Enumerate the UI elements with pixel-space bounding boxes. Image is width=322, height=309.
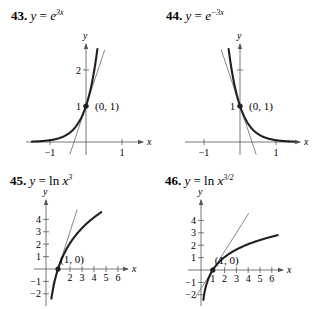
x-tick-label: 4: [92, 272, 97, 283]
x-axis-label: x: [146, 136, 152, 147]
point-marker: [210, 267, 215, 272]
y-tick-label: 2: [191, 240, 196, 251]
y-tick-label: 3: [36, 226, 41, 237]
x-tick-label: −1: [199, 147, 210, 158]
chart-title: 43. y = e3x: [11, 8, 64, 23]
x-tick-label: 5: [104, 272, 109, 283]
y-tick-label: −1: [30, 276, 41, 287]
x-tick-label: 1: [120, 147, 125, 158]
point-marker: [83, 103, 88, 108]
y-axis-label: y: [82, 30, 88, 41]
y-tick-label: 4: [36, 214, 41, 225]
chart-45: 45. y = ln x3xy23456−2−11234(1, 0): [10, 173, 137, 306]
point-label: (1, 0): [215, 254, 239, 267]
function-curve: [229, 49, 294, 142]
x-tick-label: 2: [222, 273, 227, 284]
y-tick-label: 2: [76, 65, 81, 76]
y-axis-label: y: [42, 186, 48, 197]
point-marker: [237, 103, 242, 108]
x-tick-label: −1: [45, 147, 56, 158]
x-tick-label: 6: [269, 273, 274, 284]
y-tick-label: 3: [191, 227, 196, 238]
y-tick-label: 1: [230, 101, 235, 112]
y-tick-label: 2: [36, 239, 41, 250]
y-tick-label: 4: [191, 215, 196, 226]
y-tick-label: 1: [191, 252, 196, 263]
x-tick-label: 1: [274, 147, 279, 158]
x-axis-label: x: [286, 264, 292, 275]
point-label: (1, 0): [60, 253, 84, 266]
x-tick-label: 3: [234, 273, 239, 284]
point-label: (0, 1): [249, 100, 273, 113]
chart-title: 44. y = e−3x: [166, 8, 224, 23]
x-tick-label: 4: [246, 273, 251, 284]
function-curve: [32, 49, 97, 142]
x-tick-label: 3: [80, 272, 85, 283]
chart-title: 45. y = ln x3: [10, 173, 72, 188]
x-tick-label: 2: [68, 272, 73, 283]
x-axis-label: x: [303, 136, 309, 147]
point-label: (0, 1): [95, 100, 119, 113]
x-tick-label: 6: [116, 272, 121, 283]
figure-canvas: 43. y = e3xxy−1112(0, 1) 44. y = e−3xxy−…: [0, 0, 322, 309]
y-tick-label: 1: [76, 101, 81, 112]
point-marker: [55, 266, 60, 271]
y-axis-label: y: [197, 186, 203, 197]
y-tick-label: 1: [36, 251, 41, 262]
x-tick-label: 5: [258, 273, 263, 284]
chart-46: 46. y = ln x3/2xy123456−2−11234(1, 0): [165, 173, 292, 306]
chart-43: 43. y = e3xxy−1112(0, 1): [11, 8, 152, 158]
x-axis-label: x: [131, 263, 137, 274]
y-tick-label: −1: [185, 277, 196, 288]
y-axis-label: y: [236, 30, 242, 41]
y-tick-label: −2: [30, 288, 41, 299]
function-curve: [203, 235, 277, 300]
chart-44: 44. y = e−3xxy−111(0, 1): [166, 8, 309, 158]
